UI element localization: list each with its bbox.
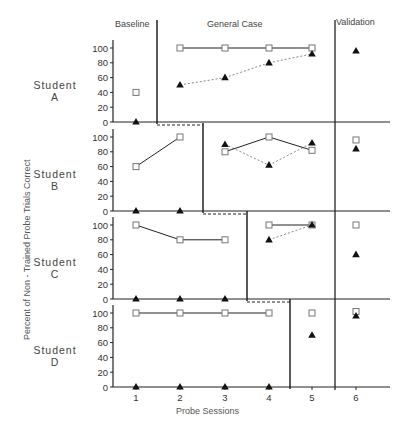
triangle-marker <box>265 236 273 243</box>
triangle-marker <box>176 81 184 88</box>
panel-student-d: 020406080100StudentD <box>33 299 390 393</box>
plot-area: 020406080100StudentA020406080100StudentB… <box>33 20 390 403</box>
x-tick-label: 4 <box>266 392 271 403</box>
square-marker <box>177 45 183 51</box>
triangle-series-line <box>180 78 225 85</box>
square-series-line <box>225 137 269 152</box>
panel-student-b: 020406080100StudentB <box>33 123 390 217</box>
y-tick-label: 60 <box>97 161 108 172</box>
phase-label-general-case: General Case <box>207 19 263 29</box>
student-letter: A <box>51 91 59 103</box>
square-marker <box>133 89 139 95</box>
x-tick-label: 2 <box>177 392 182 403</box>
x-tick-label: 1 <box>133 392 138 403</box>
square-marker <box>133 222 139 228</box>
triangle-marker <box>132 207 140 214</box>
y-tick-label: 20 <box>97 367 108 378</box>
triangle-marker <box>352 47 360 54</box>
y-tick-label: 60 <box>97 249 108 260</box>
square-marker <box>266 222 272 228</box>
student-letter: D <box>51 356 60 368</box>
square-marker <box>353 137 359 143</box>
y-tick-label: 40 <box>97 87 108 98</box>
y-tick-label: 20 <box>97 191 108 202</box>
student-label: Student <box>33 168 76 180</box>
phase-label-validation: Validation <box>336 17 375 27</box>
triangle-marker <box>352 251 360 258</box>
student-letter: B <box>51 180 59 192</box>
square-marker <box>222 45 228 51</box>
student-label: Student <box>33 256 76 268</box>
phase-label-baseline: Baseline <box>115 19 150 29</box>
square-marker <box>177 134 183 140</box>
square-marker <box>222 310 228 316</box>
x-tick-label: 3 <box>222 392 227 403</box>
square-marker <box>222 149 228 155</box>
square-marker <box>177 310 183 316</box>
square-series-line <box>269 137 312 150</box>
y-tick-label: 80 <box>97 146 108 157</box>
x-tick-label: 6 <box>353 392 358 403</box>
triangle-marker <box>176 207 184 214</box>
y-tick-label: 100 <box>92 308 108 319</box>
y-tick-label: 40 <box>97 176 108 187</box>
y-tick-label: 0 <box>103 117 108 128</box>
triangle-marker <box>221 74 229 81</box>
y-tick-label: 60 <box>97 72 108 83</box>
y-tick-label: 100 <box>92 43 108 54</box>
square-marker <box>266 134 272 140</box>
panel-student-a: 020406080100StudentA <box>33 20 390 128</box>
triangle-marker <box>132 295 140 302</box>
triangle-marker <box>308 331 316 338</box>
square-series-line <box>136 137 180 167</box>
triangle-marker <box>176 295 184 302</box>
y-tick-label: 80 <box>97 57 108 68</box>
y-tick-label: 40 <box>97 264 108 275</box>
square-marker <box>266 45 272 51</box>
student-letter: C <box>51 268 60 280</box>
square-series-line <box>136 225 180 240</box>
y-tick-label: 20 <box>97 279 108 290</box>
square-marker <box>133 310 139 316</box>
panel-student-c: 020406080100StudentC <box>33 211 390 305</box>
y-tick-label: 100 <box>92 132 108 143</box>
x-axis-title: Probe Sessions <box>176 406 240 416</box>
triangle-marker <box>221 295 229 302</box>
square-marker <box>177 237 183 243</box>
triangle-series-line <box>225 144 269 165</box>
triangle-series-line <box>269 225 312 240</box>
triangle-marker <box>308 139 316 146</box>
y-tick-label: 100 <box>92 220 108 231</box>
y-tick-label: 80 <box>97 322 108 333</box>
square-marker <box>353 222 359 228</box>
square-marker <box>266 310 272 316</box>
square-marker <box>309 310 315 316</box>
student-label: Student <box>33 79 76 91</box>
y-tick-label: 0 <box>103 294 108 305</box>
y-tick-label: 40 <box>97 352 108 363</box>
y-tick-label: 20 <box>97 102 108 113</box>
triangle-series-line <box>269 143 312 165</box>
triangle-series-line <box>269 54 312 63</box>
y-tick-label: 80 <box>97 234 108 245</box>
y-axis-title: Percent of Non - Trained Probe Trials Co… <box>22 159 32 340</box>
square-marker <box>222 237 228 243</box>
multiple-baseline-chart: Baseline General Case Validation Probe S… <box>0 0 409 432</box>
y-tick-label: 0 <box>103 206 108 217</box>
triangle-marker <box>265 59 273 66</box>
square-marker <box>309 147 315 153</box>
x-tick-label: 5 <box>309 392 314 403</box>
triangle-marker <box>221 140 229 147</box>
y-tick-label: 0 <box>103 382 108 393</box>
y-tick-label: 60 <box>97 337 108 348</box>
triangle-marker <box>352 145 360 152</box>
square-marker <box>133 164 139 170</box>
triangle-marker <box>132 118 140 125</box>
triangle-series-line <box>225 63 269 78</box>
student-label: Student <box>33 344 76 356</box>
